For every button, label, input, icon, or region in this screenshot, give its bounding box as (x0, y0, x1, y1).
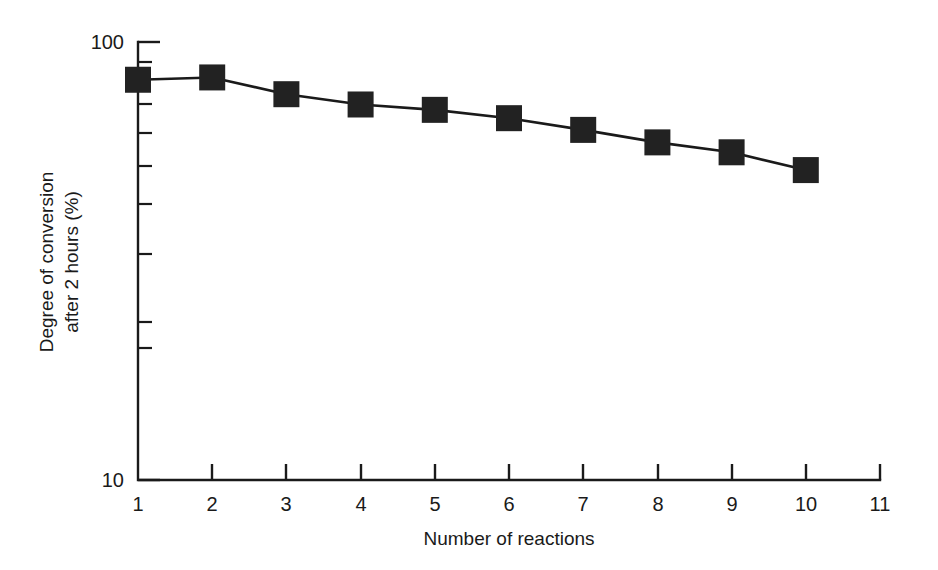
x-axis-title: Number of reactions (423, 528, 594, 549)
y-axis-title-line-2: after 2 hours (%) (61, 191, 82, 333)
x-tick-label-3: 3 (280, 493, 291, 515)
data-point-marker (125, 67, 151, 93)
data-point-marker (422, 97, 448, 123)
x-tick-label-11: 11 (870, 493, 891, 515)
chart-figure: 100 10 1 2 3 4 5 6 7 8 9 10 11 (0, 0, 938, 570)
data-point-marker (793, 157, 819, 183)
x-tick-label-4: 4 (355, 493, 366, 515)
data-point-marker (496, 105, 522, 131)
x-tick-label-8: 8 (652, 493, 663, 515)
data-point-marker (570, 117, 596, 143)
x-tick-label-1: 1 (132, 493, 143, 515)
x-tick-label-10: 10 (795, 493, 817, 515)
y-tick-label-100: 100 (91, 31, 124, 53)
x-tick-label-9: 9 (726, 493, 737, 515)
y-axis-title-line-1: Degree of conversion (36, 172, 57, 353)
x-tick-label-2: 2 (206, 493, 217, 515)
data-point-marker (644, 129, 670, 155)
semilog-line-chart: 100 10 1 2 3 4 5 6 7 8 9 10 11 (0, 0, 938, 570)
data-point-marker (273, 81, 299, 107)
x-tick-label-5: 5 (429, 493, 440, 515)
x-tick-label-6: 6 (503, 493, 514, 515)
x-tick-label-7: 7 (577, 493, 588, 515)
data-point-marker (719, 139, 745, 165)
data-point-marker (199, 64, 225, 90)
data-point-marker (348, 91, 374, 117)
y-tick-label-10: 10 (102, 469, 124, 491)
